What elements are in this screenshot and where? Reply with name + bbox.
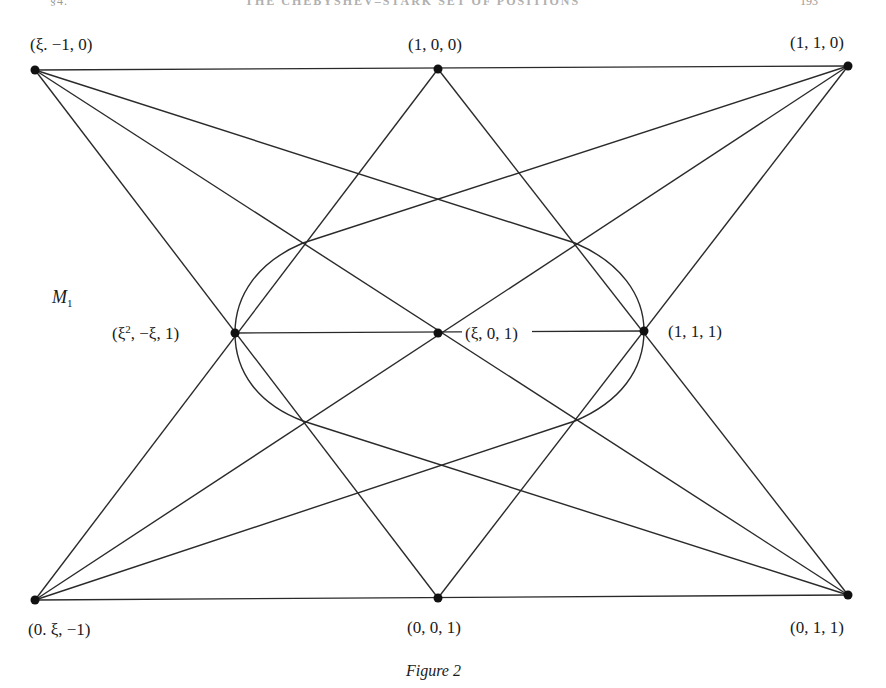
point-H (434, 594, 443, 603)
label-point-I: (0, 1, 1) (790, 619, 844, 636)
point-F (640, 327, 649, 336)
point-D (231, 329, 240, 338)
point-B (434, 65, 443, 74)
label-point-D: (ξ2, −ξ, 1) (112, 325, 179, 342)
configuration-figure (0, 0, 886, 688)
point-A (31, 66, 40, 75)
label-point-F: (1, 1, 1) (668, 323, 722, 340)
point-E (434, 329, 443, 338)
line-I-lower-left (303, 421, 848, 595)
label-point-B: (1, 0, 0) (408, 36, 462, 53)
point-I (844, 591, 853, 600)
label-point-H: (0, 0, 1) (407, 619, 461, 636)
region-label-M1: M1 (52, 288, 73, 309)
line-A-upper-right (35, 70, 575, 243)
line-C-upper-left (303, 66, 848, 243)
line-G-lower-right (35, 421, 575, 600)
point-C (844, 62, 853, 71)
label-point-A: (ξ. −1, 0) (30, 36, 93, 53)
label-point-G: (0. ξ, −1) (28, 621, 91, 638)
label-point-C: (1, 1, 0) (790, 34, 844, 51)
figure-caption: Figure 2 (406, 662, 461, 680)
label-point-E: (ξ, 0, 1) (465, 325, 518, 342)
conic-upper-arc (303, 224, 575, 243)
point-G (31, 596, 40, 605)
